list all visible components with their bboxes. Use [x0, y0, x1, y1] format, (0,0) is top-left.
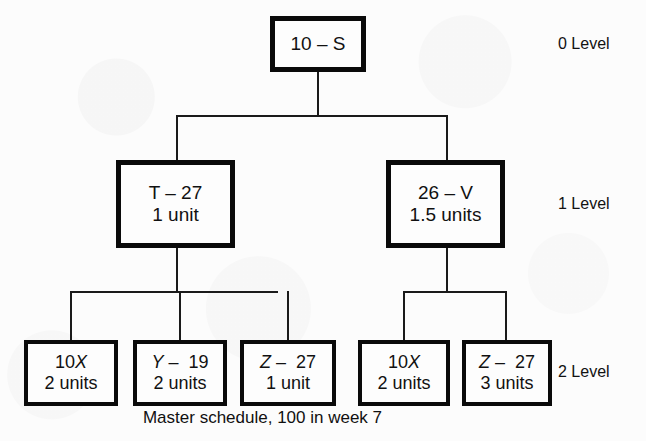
node-leaf-4-label-prefix: 10 — [388, 352, 408, 372]
level-label-1: 1 Level — [558, 195, 610, 213]
connector-to-leaf-1 — [70, 291, 72, 341]
connector-level1-bus — [176, 115, 448, 117]
node-level1-right-label: 26 – V — [418, 182, 473, 204]
node-leaf-3-quantity: 1 unit — [266, 373, 310, 394]
level-label-0: 0 Level — [558, 35, 610, 53]
node-leaf-4-label: 10X — [388, 352, 420, 373]
node-level1-left-label: T – 27 — [149, 182, 203, 204]
node-leaf-2-label: Y – 19 — [151, 352, 208, 373]
connector-left-children-bus — [70, 291, 278, 293]
connector-to-level1-left — [176, 115, 178, 161]
node-leaf-3-label-italic: Z — [260, 352, 271, 372]
node-level2-10x-a[interactable]: 10X 2 units — [24, 340, 118, 406]
connector-right-children-bus — [403, 291, 507, 293]
node-level1-left-quantity: 1 unit — [152, 204, 198, 226]
node-leaf-4-quantity: 2 units — [377, 373, 430, 394]
node-level1-right-quantity: 1.5 units — [410, 204, 482, 226]
bom-tree-diagram: 10 – S T – 27 1 unit 26 – V 1.5 units 10… — [0, 0, 646, 441]
node-root-label: 10 – S — [291, 33, 346, 55]
node-level2-z-27-b[interactable]: Z – 27 3 units — [462, 340, 552, 406]
node-leaf-2-label-suffix: – 19 — [163, 352, 208, 372]
node-leaf-2-label-italic: Y — [151, 352, 163, 372]
node-leaf-5-label: Z – 27 — [479, 352, 535, 373]
connector-to-leaf-3 — [287, 291, 289, 341]
node-leaf-3-label-suffix: – 27 — [271, 352, 316, 372]
node-level2-10x-b[interactable]: 10X 2 units — [358, 340, 450, 406]
connector-root-stem — [317, 72, 319, 116]
node-level2-y-19[interactable]: Y – 19 2 units — [133, 340, 227, 406]
node-level1-t-27[interactable]: T – 27 1 unit — [116, 160, 235, 248]
connector-to-level1-right — [446, 115, 448, 161]
node-level1-26-v[interactable]: 26 – V 1.5 units — [386, 160, 505, 248]
node-leaf-1-label: 10X — [55, 352, 87, 373]
node-level2-z-27-a[interactable]: Z – 27 1 unit — [240, 340, 336, 406]
node-leaf-3-label: Z – 27 — [260, 352, 316, 373]
node-root-10-s[interactable]: 10 – S — [270, 16, 366, 72]
node-leaf-5-label-suffix: – 27 — [490, 352, 535, 372]
node-leaf-5-label-italic: Z — [479, 352, 490, 372]
node-leaf-1-quantity: 2 units — [44, 373, 97, 394]
node-leaf-1-label-prefix: 10 — [55, 352, 75, 372]
node-leaf-2-quantity: 2 units — [153, 373, 206, 394]
connector-right-parent-stem — [446, 248, 448, 292]
diagram-caption: Master schedule, 100 in week 7 — [0, 408, 525, 428]
connector-to-leaf-2 — [179, 291, 181, 341]
node-leaf-4-label-italic: X — [408, 352, 420, 372]
node-leaf-1-label-italic: X — [75, 352, 87, 372]
connector-left-parent-stem — [176, 248, 178, 292]
node-leaf-5-quantity: 3 units — [480, 373, 533, 394]
connector-to-leaf-4 — [403, 291, 405, 341]
level-label-2: 2 Level — [558, 363, 610, 381]
connector-to-leaf-5 — [505, 291, 507, 341]
